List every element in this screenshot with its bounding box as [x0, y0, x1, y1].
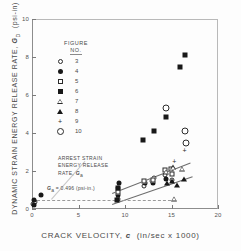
marker-open-square — [150, 177, 155, 182]
x-tick-mark — [79, 205, 80, 209]
legend-label: 4 — [68, 68, 78, 74]
data-point-series-7 — [163, 169, 169, 174]
y-tick-mark — [32, 95, 36, 96]
legend-label: 9 — [68, 118, 78, 124]
equation-value: = 0.496 (psi-in.) — [56, 185, 95, 191]
legend-label: 7 — [68, 98, 78, 104]
x-tick-label: 20 — [214, 212, 221, 218]
arrest-annotation-rate-label: RATE, — [58, 170, 74, 176]
marker-filled-circle — [32, 197, 37, 202]
legend-title-line2: NO. — [70, 47, 81, 55]
marker-open-triangle — [163, 169, 169, 174]
marker-plus: + — [172, 158, 177, 163]
data-point-series-5 — [150, 177, 155, 182]
data-point-series-5 — [141, 179, 146, 184]
data-point-series-10 — [182, 128, 189, 135]
legend-entry-8: 8 — [52, 106, 100, 116]
marker-filled-square — [151, 129, 156, 134]
arrest-annotation-var-sub: a — [80, 172, 83, 178]
marker-filled-circle — [39, 192, 44, 197]
data-point-series-9: + — [182, 148, 187, 153]
marker-open-square — [170, 171, 175, 176]
marker-filled-triangle — [57, 109, 63, 114]
marker-plus: + — [182, 148, 187, 153]
x-tick-mark — [125, 205, 126, 209]
x-tick-mark — [218, 205, 219, 209]
marker-big-open-circle — [182, 128, 189, 135]
marker-filled-square — [58, 89, 63, 94]
legend-entries: 345678+910 — [52, 56, 100, 136]
y-tick-mark — [32, 57, 36, 58]
data-point-series-6 — [177, 64, 182, 69]
marker-big-open-circle — [57, 128, 64, 135]
marker-filled-circle — [58, 69, 63, 74]
legend-label: 3 — [68, 58, 78, 64]
data-point-series-7 — [179, 167, 185, 172]
data-point-series-10 — [183, 139, 190, 146]
legend-title: FIGURE NO. — [52, 40, 100, 55]
y-axis-title-var-sub: D — [15, 33, 21, 37]
marker-filled-square — [177, 64, 182, 69]
x-axis-title-units: (in/sec x 1000) — [137, 231, 200, 240]
marker-filled-triangle — [181, 176, 187, 181]
x-tick-mark — [172, 205, 173, 209]
legend-entry-10: 10 — [52, 126, 100, 136]
marker-filled-triangle — [174, 183, 180, 188]
legend-label: 6 — [68, 88, 78, 94]
arrest-strain-annotation: ARREST STRAIN ENERGY RELEASE RATE, Ga — [58, 155, 108, 179]
marker-filled-square — [114, 198, 119, 203]
x-tick-label: 10 — [121, 212, 128, 218]
y-axis-title-main: DYNAMIC STRAIN ENERGY RELEASE RATE, — [11, 46, 18, 215]
legend-entry-4: 4 — [52, 66, 100, 76]
legend-entry-3: 3 — [52, 56, 100, 66]
y-tick-mark — [32, 171, 36, 172]
x-axis-title-main: CRACK VELOCITY, — [41, 231, 122, 240]
marker-open-triangle — [57, 99, 63, 104]
arrest-annotation-line3: RATE, Ga — [58, 170, 108, 179]
arrest-annotation-line2: ENERGY RELEASE — [58, 162, 108, 169]
marker-filled-square — [163, 114, 168, 119]
marker-open-triangle — [170, 165, 176, 170]
legend: FIGURE NO. 345678+910 — [52, 40, 100, 136]
data-point-series-6 — [183, 53, 188, 58]
data-point-series-8 — [181, 176, 187, 181]
legend-title-line1: FIGURE — [52, 40, 100, 47]
x-tick-label: 15 — [168, 212, 175, 218]
legend-marker-open-triangle — [52, 99, 68, 104]
chart-figure: ++ 05101520 0246810 CRACK VELOCITY, c (i… — [0, 0, 241, 251]
y-tick-mark — [32, 133, 36, 134]
legend-marker-filled-square — [52, 89, 68, 94]
marker-plus: + — [58, 119, 63, 124]
marker-filled-circle — [31, 203, 36, 208]
data-point-series-6 — [115, 186, 120, 191]
y-axis-title-units: (psi-in) — [11, 2, 18, 28]
y-tick-mark — [32, 19, 36, 20]
x-axis-title: CRACK VELOCITY, c (in/sec x 1000) — [0, 231, 241, 240]
marker-big-open-circle — [162, 105, 169, 112]
data-point-series-6 — [151, 129, 156, 134]
data-point-series-9: + — [172, 158, 177, 163]
data-point-series-6 — [163, 114, 168, 119]
marker-open-square — [141, 179, 146, 184]
x-tick-label: 0 — [30, 212, 34, 218]
legend-marker-open-square — [52, 79, 68, 84]
y-axis-title-var: G — [11, 38, 18, 44]
legend-marker-big-open-circle — [52, 128, 68, 135]
equation-var-sub: a — [51, 187, 54, 193]
legend-marker-filled-circle — [52, 69, 68, 74]
data-point-series-7 — [170, 165, 176, 170]
legend-entry-5: 5 — [52, 76, 100, 86]
data-point-series-6 — [114, 198, 119, 203]
marker-open-triangle — [179, 167, 185, 172]
marker-open-square — [58, 79, 63, 84]
data-point-series-10 — [162, 105, 169, 112]
legend-label: 10 — [68, 128, 82, 134]
data-point-series-5 — [170, 171, 175, 176]
marker-filled-square — [115, 186, 120, 191]
legend-label: 8 — [68, 108, 78, 114]
data-point-series-6 — [140, 137, 145, 142]
data-point-series-8 — [174, 183, 180, 188]
legend-marker-open-circle — [52, 59, 68, 64]
data-point-series-4 — [32, 197, 37, 202]
marker-filled-square — [183, 53, 188, 58]
